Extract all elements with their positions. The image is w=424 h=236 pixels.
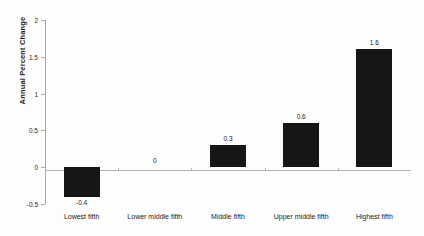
y-axis-tick-mark xyxy=(41,94,45,95)
y-axis-tick-label: -0.5 xyxy=(4,201,38,208)
bar-value-label: 0 xyxy=(125,157,185,164)
y-axis-tick-mark xyxy=(41,167,45,168)
y-axis-tick-label: 1 xyxy=(4,90,38,97)
bar xyxy=(64,167,100,196)
bar-value-label: 0.3 xyxy=(198,135,258,142)
y-axis-tick-label: 0.5 xyxy=(4,127,38,134)
y-axis-tick-mark xyxy=(41,57,45,58)
bar xyxy=(283,123,319,167)
bar xyxy=(356,49,392,167)
bar-value-label: 0.6 xyxy=(271,113,331,120)
x-axis-tick-mark xyxy=(265,168,266,171)
y-axis-tick-mark xyxy=(41,20,45,21)
y-axis-tick-label: 0 xyxy=(4,164,38,171)
bar xyxy=(210,145,246,167)
bar-chart: Annual Percent Change 21.510.50-0.5 -0.4… xyxy=(0,0,424,236)
x-axis-category-label: Highest fifth xyxy=(324,213,424,220)
y-axis-tick-label: 2 xyxy=(4,17,38,24)
y-axis-tick-label: 1.5 xyxy=(4,53,38,60)
bar-value-label: -0.4 xyxy=(52,199,112,206)
y-axis-tick-mark xyxy=(41,204,45,205)
x-axis-tick-mark xyxy=(338,168,339,171)
y-axis-tick-mark xyxy=(41,130,45,131)
bar-value-label: 1.6 xyxy=(344,39,404,46)
x-axis-tick-mark xyxy=(191,168,192,171)
zero-baseline xyxy=(45,170,411,171)
x-axis-tick-mark xyxy=(118,168,119,171)
y-axis-line xyxy=(45,20,46,204)
